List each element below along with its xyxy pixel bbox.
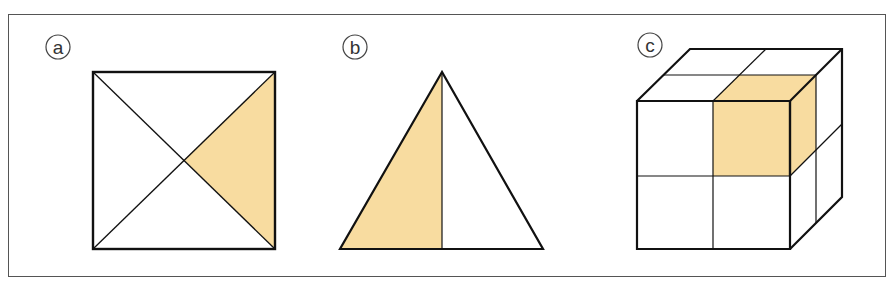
panel-label-a: a [53, 37, 64, 58]
shaded-cube-front [713, 101, 790, 176]
panel-label-b: b [350, 37, 361, 58]
panel-a: a [46, 35, 275, 249]
panel-b: b [340, 35, 543, 249]
shaded-quarter [184, 72, 275, 249]
panel-c: c [637, 33, 842, 249]
panel-label-c: c [645, 35, 655, 56]
fraction-figure: a b c [0, 0, 896, 283]
